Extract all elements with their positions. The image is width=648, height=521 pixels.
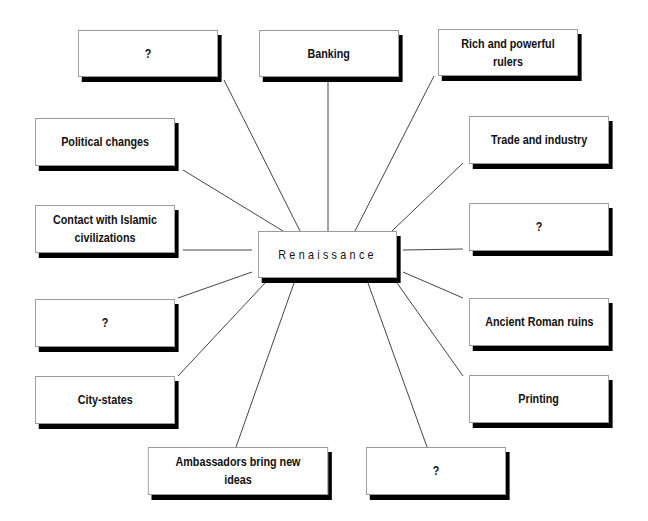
- node-islamic-contact: Contact with Islamic civilizations: [35, 205, 175, 253]
- node-label: Banking: [308, 45, 350, 63]
- node-label: Trade and industry: [491, 131, 587, 149]
- node-label: Ambassadors bring new ideas: [163, 453, 314, 488]
- node-label: ?: [102, 314, 109, 332]
- node-unknown-4: ?: [366, 447, 506, 495]
- node-label: Contact with Islamic civilizations: [48, 211, 162, 246]
- node-unknown-1: ?: [78, 30, 218, 77]
- node-label: Rich and powerful rulers: [451, 35, 565, 70]
- node-label: Political changes: [61, 133, 149, 151]
- node-label: ?: [433, 462, 440, 480]
- node-label: ?: [536, 218, 543, 236]
- node-trade-industry: Trade and industry: [469, 116, 609, 164]
- node-label: City-states: [77, 391, 132, 409]
- center-label: Renaissance: [278, 246, 377, 264]
- node-unknown-3: ?: [35, 299, 175, 347]
- node-label: Ancient Roman ruins: [485, 313, 593, 331]
- node-political-changes: Political changes: [35, 118, 175, 166]
- node-rich-rulers: Rich and powerful rulers: [438, 29, 578, 76]
- node-city-states: City-states: [35, 376, 175, 424]
- node-printing: Printing: [469, 375, 609, 423]
- node-banking: Banking: [259, 30, 399, 77]
- node-ambassadors: Ambassadors bring new ideas: [148, 447, 328, 495]
- node-label: ?: [145, 45, 152, 63]
- node-label: Printing: [519, 390, 560, 408]
- center-node-renaissance: Renaissance: [258, 231, 397, 278]
- node-unknown-2: ?: [469, 203, 609, 251]
- node-roman-ruins: Ancient Roman ruins: [469, 298, 609, 346]
